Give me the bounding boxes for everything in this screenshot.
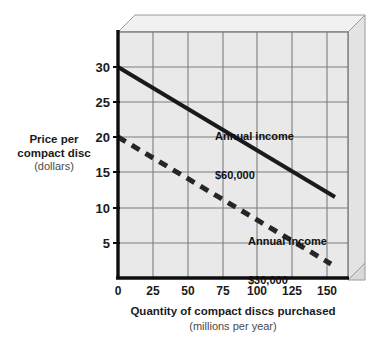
y-tick-label-30: 30 bbox=[84, 60, 110, 75]
x-axis-subtitle: (millions per year) bbox=[88, 320, 378, 333]
annotation-high-income-line2: $60,000 bbox=[215, 169, 294, 182]
panel-right-bevel bbox=[348, 15, 365, 280]
annotation-high-income: Annual income $60,000 bbox=[215, 104, 294, 208]
y-axis-title-line2: compact disc bbox=[2, 147, 106, 161]
x-tick-label-0: 0 bbox=[98, 284, 138, 298]
annotation-high-income-line1: Annual income bbox=[215, 130, 294, 143]
y-tick-label-10: 10 bbox=[84, 201, 110, 216]
annotation-low-income-line1: Annual income bbox=[248, 235, 327, 248]
annotation-low-income: Annual income $30,000 bbox=[248, 209, 327, 313]
y-tick-label-5: 5 bbox=[84, 236, 110, 251]
panel-top-bevel bbox=[118, 15, 365, 32]
x-tick-label-50: 50 bbox=[168, 284, 208, 298]
demand-curve-figure: 30 25 20 15 10 5 0 25 50 75 100 125 150 … bbox=[0, 0, 391, 342]
x-tick-label-25: 25 bbox=[133, 284, 173, 298]
x-axis-title: Quantity of compact discs purchased bbox=[88, 305, 378, 318]
y-tick-label-25: 25 bbox=[84, 95, 110, 110]
y-axis-title-block: Price per compact disc (dollars) bbox=[2, 133, 106, 174]
y-axis-title-line1: Price per bbox=[2, 133, 106, 147]
annotation-low-income-line2: $30,000 bbox=[248, 274, 327, 287]
y-axis-subtitle: (dollars) bbox=[2, 160, 106, 174]
